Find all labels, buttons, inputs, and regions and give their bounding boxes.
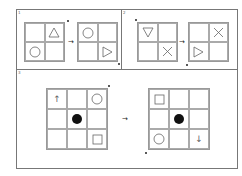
- cell-empty: [67, 129, 87, 149]
- filled-circle-icon: [173, 113, 185, 125]
- cell-empty: [78, 42, 98, 61]
- cell-filled-circle: [169, 109, 189, 129]
- marker-dot: [67, 20, 69, 22]
- panel-1-label: 1: [18, 10, 21, 15]
- marker-dot: [118, 63, 120, 65]
- cell-empty: [25, 23, 45, 42]
- panel-2-right-grid: [188, 22, 229, 62]
- triangle-right-icon: [193, 46, 204, 58]
- connector-arrow-icon: →: [122, 116, 128, 123]
- circle-icon: [91, 93, 103, 105]
- connector-arrow-icon: →: [68, 39, 74, 46]
- marker-dot: [145, 152, 147, 154]
- cell-empty: [87, 109, 107, 129]
- arrow-down-icon: ↓: [195, 134, 203, 144]
- cell-cross: [158, 42, 178, 61]
- panel-3-right-grid: ↓: [148, 88, 210, 150]
- cell-empty: [158, 23, 178, 42]
- circle-icon: [29, 46, 41, 58]
- cell-empty: [149, 109, 169, 129]
- connector-arrow-icon: →: [179, 39, 185, 46]
- filled-circle-icon: [71, 113, 83, 125]
- marker-dot: [186, 64, 188, 66]
- cell-empty: [67, 89, 87, 109]
- cell-empty: [47, 109, 67, 129]
- marker-dot: [135, 19, 137, 21]
- cell-triangle: [189, 42, 209, 61]
- cell-empty: [45, 42, 65, 61]
- panel-1-left-grid: [24, 22, 65, 62]
- panel-2-label: 2: [123, 10, 126, 15]
- triangle-up-icon: [48, 27, 60, 38]
- cell-circle: [87, 89, 107, 109]
- panel-1-right-grid: [77, 22, 118, 62]
- cell-circle: [149, 129, 169, 149]
- cell-circle: [78, 23, 98, 42]
- cell-triangle: [98, 42, 118, 61]
- cross-icon: [213, 27, 224, 38]
- cell-empty: [47, 129, 67, 149]
- panel-2-left-grid: [137, 22, 178, 62]
- cell-arrow: ↓: [189, 129, 209, 149]
- cross-icon: [162, 46, 173, 57]
- cell-square: [149, 89, 169, 109]
- cell-empty: [138, 42, 158, 61]
- marker-dot: [108, 85, 110, 87]
- circle-icon: [153, 133, 165, 145]
- cell-triangle: [45, 23, 65, 42]
- square-icon: [154, 94, 165, 105]
- cell-square: [87, 129, 107, 149]
- cell-empty: [189, 109, 209, 129]
- panel-3-label: 3: [18, 70, 21, 75]
- cell-empty: [189, 23, 209, 42]
- cell-circle: [25, 42, 45, 61]
- cell-empty: [98, 23, 118, 42]
- triangle-down-icon: [142, 27, 154, 38]
- cell-empty: [169, 129, 189, 149]
- triangle-right-icon: [102, 46, 113, 58]
- square-icon: [92, 134, 103, 145]
- cell-filled-circle: [67, 109, 87, 129]
- cell-arrow: ↑: [47, 89, 67, 109]
- arrow-up-icon: ↑: [53, 94, 61, 104]
- cell-empty: [169, 89, 189, 109]
- cell-triangle: [138, 23, 158, 42]
- circle-icon: [82, 27, 94, 39]
- cell-cross: [209, 23, 229, 42]
- cell-empty: [209, 42, 229, 61]
- panel-3-left-grid: ↑: [46, 88, 108, 150]
- cell-empty: [189, 89, 209, 109]
